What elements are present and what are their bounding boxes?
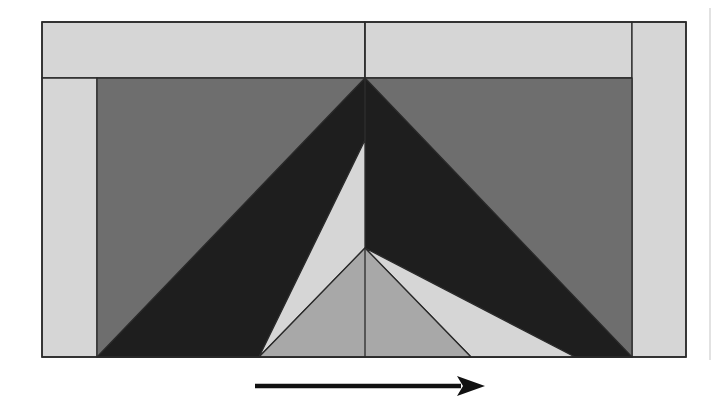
right-strip [632,22,686,357]
top-band-right [365,22,632,78]
diagram-regions [42,22,686,357]
arrow-head [457,376,485,396]
right-arrow-icon [255,376,485,396]
left-strip [42,78,97,357]
quilt-block-diagram: Geometric quilt-block style composition … [0,0,718,411]
top-band-left [42,22,365,78]
